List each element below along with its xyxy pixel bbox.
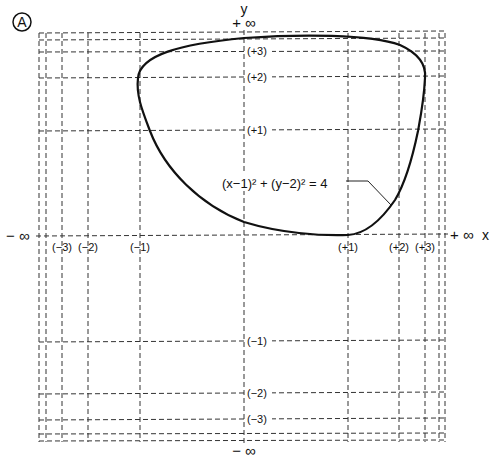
x-neg-infinity: − ∞	[6, 227, 30, 244]
y-tick-pos2: (+2)	[247, 71, 267, 83]
x-axis-line	[36, 234, 448, 236]
x-tick-pos2: (+2)	[389, 241, 409, 253]
x-axis-name: x	[482, 227, 489, 243]
y-tick-pos3: (+3)	[247, 45, 267, 57]
x-tick-pos3: (+3)	[415, 241, 435, 253]
circle-curve	[138, 36, 426, 236]
y-tick-pos1: (+1)	[247, 124, 267, 136]
x-tick-neg2: (−2)	[78, 241, 98, 253]
y-neg-infinity: − ∞	[232, 442, 256, 459]
diagram-canvas: A	[0, 0, 496, 461]
equation-label: (x−1)² + (y−2)² = 4	[222, 176, 327, 191]
figure-badge: A	[13, 13, 31, 31]
y-tick-neg3: (−3)	[247, 413, 267, 425]
y-tick-neg1: (−1)	[247, 335, 267, 347]
x-tick-neg3: (−3)	[52, 241, 72, 253]
y-tick-neg2: (−2)	[247, 387, 267, 399]
badge-label: A	[17, 14, 27, 30]
y-pos-infinity: + ∞	[232, 14, 256, 31]
x-tick-pos1: (+1)	[338, 241, 358, 253]
horizontal-grid-lines	[36, 31, 448, 441]
equation-leader-line	[346, 181, 391, 205]
x-tick-neg1: (−1)	[130, 241, 150, 253]
x-pos-infinity: + ∞	[450, 226, 474, 243]
vertical-grid-lines	[39, 30, 445, 445]
